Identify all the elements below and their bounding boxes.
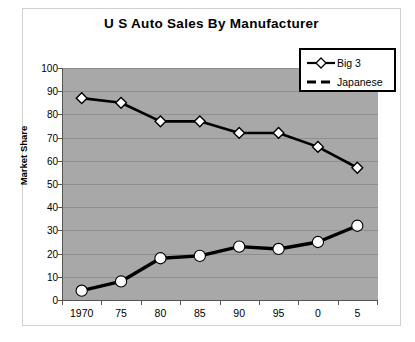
data-point-marker <box>116 97 127 108</box>
y-axis-tick-label: 80 <box>24 109 58 120</box>
y-axis-tick-label: 60 <box>24 155 58 166</box>
y-axis-tick-label: 30 <box>24 225 58 236</box>
x-axis-tick-label: 0 <box>315 307 321 319</box>
data-point-marker <box>115 276 126 287</box>
x-axis-tick-mark <box>377 301 378 305</box>
data-point-marker <box>194 250 205 261</box>
y-axis-tick-label: 20 <box>24 248 58 259</box>
data-point-marker <box>234 128 245 139</box>
x-axis-tick-label: 85 <box>194 307 206 319</box>
y-axis-tick-label: 70 <box>24 132 58 143</box>
data-point-marker <box>76 93 87 104</box>
data-point-marker <box>76 285 87 296</box>
series-layer <box>62 68 377 300</box>
data-point-marker <box>273 128 284 139</box>
y-axis-tick-label: 0 <box>24 295 58 306</box>
legend-marker-diamond-icon <box>306 56 336 70</box>
x-axis-tick-mark <box>220 301 221 305</box>
y-axis-tick-label: 50 <box>24 179 58 190</box>
x-axis-tick-mark <box>338 301 339 305</box>
data-point-marker <box>313 141 324 152</box>
y-axis-tick-labels: 0102030405060708090100 <box>22 68 58 300</box>
data-point-marker <box>194 116 205 127</box>
x-axis-tick-mark <box>298 301 299 305</box>
legend-marker-dashed-icon <box>306 75 336 89</box>
legend-label-japanese: Japanese <box>337 76 383 88</box>
series-line-big-3 <box>82 98 358 168</box>
x-axis-tick-mark <box>141 301 142 305</box>
y-axis-tick-label: 40 <box>24 202 58 213</box>
x-axis-tick-mark <box>62 301 63 305</box>
data-point-marker <box>155 116 166 127</box>
data-point-marker <box>352 162 363 173</box>
data-point-marker <box>312 236 323 247</box>
legend-item-big3[interactable]: Big 3 <box>306 53 389 72</box>
x-axis-tick-labels: 1970758085909505 <box>62 307 377 325</box>
data-point-marker <box>234 241 245 252</box>
chart-container: U S Auto Sales By Manufacturer Market Sh… <box>0 0 415 342</box>
x-axis-tick-label: 95 <box>273 307 285 319</box>
y-axis-tick-label: 90 <box>24 86 58 97</box>
chart-legend: Big 3 Japanese <box>299 48 396 92</box>
x-axis-tick-mark <box>101 301 102 305</box>
x-axis-tick-mark <box>259 301 260 305</box>
y-axis-tick-label: 10 <box>24 271 58 282</box>
data-point-marker <box>273 243 284 254</box>
x-axis-tick-label: 80 <box>155 307 167 319</box>
x-axis-tick-mark <box>180 301 181 305</box>
x-axis-tick-marks <box>62 301 377 306</box>
data-point-marker <box>352 220 363 231</box>
y-axis-tick-label: 100 <box>24 63 58 74</box>
legend-item-japanese[interactable]: Japanese <box>306 72 389 91</box>
x-axis-tick-label: 5 <box>354 307 360 319</box>
legend-label-big3: Big 3 <box>337 57 361 69</box>
x-axis-tick-label: 1970 <box>70 307 93 319</box>
chart-title: U S Auto Sales By Manufacturer <box>22 16 401 31</box>
x-axis-tick-label: 75 <box>115 307 127 319</box>
data-point-marker <box>155 253 166 264</box>
x-axis-tick-label: 90 <box>233 307 245 319</box>
